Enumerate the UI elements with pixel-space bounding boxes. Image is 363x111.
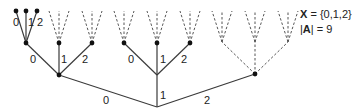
label-root-0: 0 [103,94,109,106]
label-root-2: 2 [204,94,210,106]
label-left-2: 2 [82,53,88,65]
cardinality: |A| = 9 [300,22,352,37]
label-leaf-2: 2 [37,16,43,28]
label-middle-2: 2 [181,53,187,65]
label-middle-1: 1 [160,53,166,65]
right-subtree [212,11,298,74]
set-definition: X = {0,1,2} [300,7,352,22]
label-root-1: 1 [160,89,166,101]
label-left-1: 1 [61,53,67,65]
label-middle-0: 0 [128,53,134,65]
root-edges [59,74,255,107]
legend: X = {0,1,2} |A| = 9 [300,7,352,37]
label-leaf-0: 0 [13,16,19,28]
label-left-0: 0 [30,53,36,65]
label-leaf-1: 1 [28,16,34,28]
